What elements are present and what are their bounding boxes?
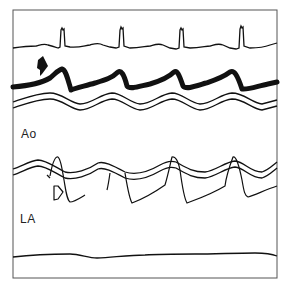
- ecg-trace: [13, 26, 277, 49]
- left-atrium-label: LA: [20, 212, 36, 226]
- baseline-trace: [13, 253, 277, 258]
- echocardiogram-figure: Ao LA: [0, 0, 290, 288]
- aorta-label: Ao: [21, 127, 37, 141]
- figure-frame: [13, 10, 277, 278]
- thick-wall-trace: [13, 69, 277, 90]
- tracing-canvas: [0, 0, 290, 288]
- open-arrow-icon: [54, 186, 63, 200]
- aortic-root-upper-wall: [13, 93, 277, 110]
- solid-arrow-icon: [37, 56, 48, 76]
